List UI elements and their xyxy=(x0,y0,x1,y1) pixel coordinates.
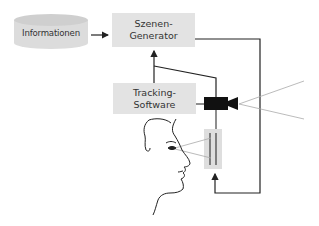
tracking-software-box: Tracking- Software xyxy=(113,83,196,114)
display-panel xyxy=(204,129,222,169)
szenen-generator-box: Szenen- Generator xyxy=(112,13,195,47)
camera-fov-lower xyxy=(239,104,304,119)
face-profile-icon xyxy=(144,119,190,215)
informationen-label: Informationen xyxy=(14,26,88,40)
arrow-generator-to-display xyxy=(195,39,260,193)
diagram-canvas: Informationen Szenen- Generator Tracking… xyxy=(0,0,319,226)
camera-fov-upper xyxy=(239,81,304,104)
video-camera-icon xyxy=(204,97,238,110)
